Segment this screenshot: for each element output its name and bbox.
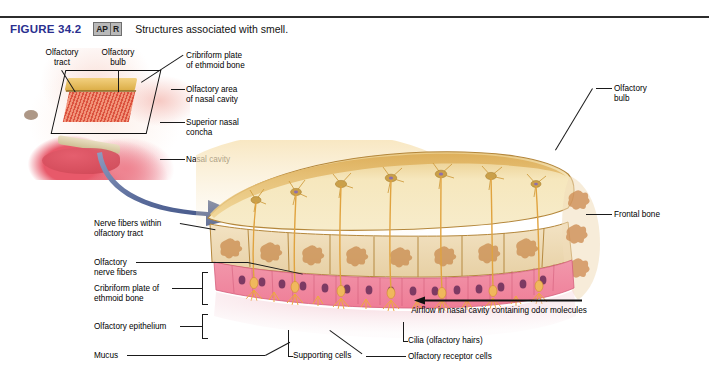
header-divider	[0, 16, 709, 18]
label-nerve-fibers-tract: Nerve fibers within olfactory tract	[94, 219, 161, 239]
label-cribriform-plate-main: Cribriform plate of ethmoid bone	[94, 284, 159, 304]
bracket-cribriform-plate	[202, 272, 203, 304]
label-frontal-bone: Frontal bone	[614, 210, 660, 220]
bracket-cribriform-plate-bottom	[202, 304, 208, 305]
leader-olfactory-nerve-fibers	[136, 262, 248, 263]
leader-mucus	[127, 355, 265, 356]
apr-badge[interactable]: AP R	[93, 22, 122, 36]
label-airflow: Airflow in nasal cavity containing odor …	[404, 306, 594, 316]
bracket-olfactory-epithelium	[202, 314, 203, 338]
label-olfactory-nerve-fibers: Olfactory nerve fibers	[94, 258, 137, 278]
apr-badge-r: R	[110, 23, 121, 35]
label-olfactory-epithelium: Olfactory epithelium	[94, 322, 166, 332]
label-olfactory-area: Olfactory area of nasal cavity	[186, 85, 238, 105]
figure-caption: Structures associated with smell.	[135, 23, 288, 35]
leader-supporting-cells	[288, 330, 289, 356]
leader-olfactory-epithelium	[180, 326, 202, 327]
leader-cilia-foot	[403, 341, 408, 342]
label-cilia: Cilia (olfactory hairs)	[408, 336, 483, 346]
label-olfactory-bulb-inset: Olfactory bulb	[92, 48, 144, 68]
leader-olfactory-bulb-inset	[118, 70, 119, 92]
leader-olfactory-area	[171, 89, 185, 90]
bracket-cribriform-plate-top	[202, 272, 208, 273]
apr-badge-ap: AP	[94, 23, 110, 35]
figure-number: FIGURE 34.2	[10, 23, 81, 35]
bracket-olfactory-epithelium-top	[202, 314, 208, 315]
leader-receptor-cells	[366, 356, 406, 357]
bracket-olfactory-epithelium-bottom	[202, 338, 208, 339]
label-supporting-cells: Supporting cells	[293, 351, 351, 361]
nostril-shape	[24, 110, 38, 120]
leader-olfactory-bulb-main	[596, 88, 612, 89]
figure-header: FIGURE 34.2 AP R Structures associated w…	[10, 21, 288, 36]
label-olfactory-tract: Olfactory tract	[34, 48, 90, 68]
leader-superior-concha	[160, 122, 185, 123]
left-arrow-icon	[414, 296, 582, 305]
label-cribriform-plate-inset: Cribriform plate of ethmoid bone	[186, 51, 245, 71]
leader-cilia	[403, 322, 404, 341]
label-receptor-cells: Olfactory receptor cells	[408, 352, 492, 362]
leader-cribriform-plate-main	[172, 288, 202, 289]
label-olfactory-bulb-main: Olfactory bulb	[614, 84, 647, 104]
label-mucus: Mucus	[94, 351, 118, 361]
label-superior-concha: Superior nasal concha	[186, 118, 239, 138]
leader-frontal-bone	[586, 214, 612, 215]
leader-supporting-cells-foot	[288, 356, 293, 357]
